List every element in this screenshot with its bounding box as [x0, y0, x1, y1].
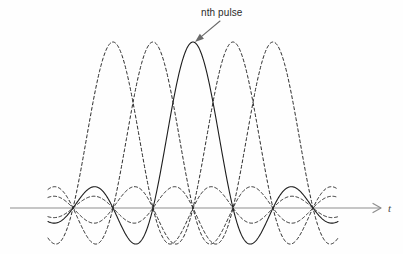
pulse-curves-group	[48, 42, 338, 244]
time-axis-group	[10, 204, 381, 213]
pulse-plot-canvas	[0, 0, 403, 254]
sinc-pulse-figure: nth pulse t	[0, 0, 403, 254]
nth-pulse-label: nth pulse	[201, 7, 243, 18]
nth-pulse-curve	[48, 42, 338, 244]
annotation-leader-group	[195, 21, 220, 42]
time-axis-label: t	[388, 202, 391, 214]
pulse-curve-4	[48, 42, 338, 244]
pulse-curve-2	[48, 42, 338, 244]
pulse-curve-5	[48, 42, 338, 244]
pulse-curve-1	[48, 42, 338, 244]
